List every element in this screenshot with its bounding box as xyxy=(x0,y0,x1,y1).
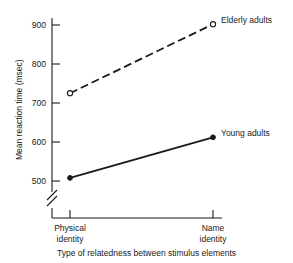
y-tick-label-900: 900 xyxy=(18,20,46,30)
series-line-elderly-adults xyxy=(70,24,213,93)
data-point-young-physical-identity xyxy=(68,176,73,181)
x-tick-label-physical-identity-line1: Physical xyxy=(35,223,105,234)
series-label-young-adults: Young adults xyxy=(221,128,270,138)
series-line-young-adults xyxy=(70,137,213,178)
x-tick-label-name-identity-line2: identity xyxy=(178,234,248,245)
data-point-elderly-physical-identity xyxy=(67,91,72,96)
axis-break-mark-lower xyxy=(47,196,57,206)
data-point-young-name-identity xyxy=(211,135,216,140)
x-tick-label-name-identity: Name identity xyxy=(178,223,248,245)
x-axis-title: Type of relatedness between stimulus ele… xyxy=(0,248,293,258)
x-tick-label-physical-identity-line2: identity xyxy=(35,234,105,245)
y-axis-title: Mean reaction time (msec) xyxy=(14,59,24,160)
data-point-elderly-name-identity xyxy=(210,22,215,27)
x-tick-label-name-identity-line1: Name xyxy=(178,223,248,234)
series-label-elderly-adults: Elderly adults xyxy=(221,15,272,25)
x-tick-label-physical-identity: Physical identity xyxy=(35,223,105,245)
y-tick-label-500: 500 xyxy=(18,176,46,186)
line-chart-figure: 900 800 700 600 500 Mean reaction time (… xyxy=(0,0,293,263)
